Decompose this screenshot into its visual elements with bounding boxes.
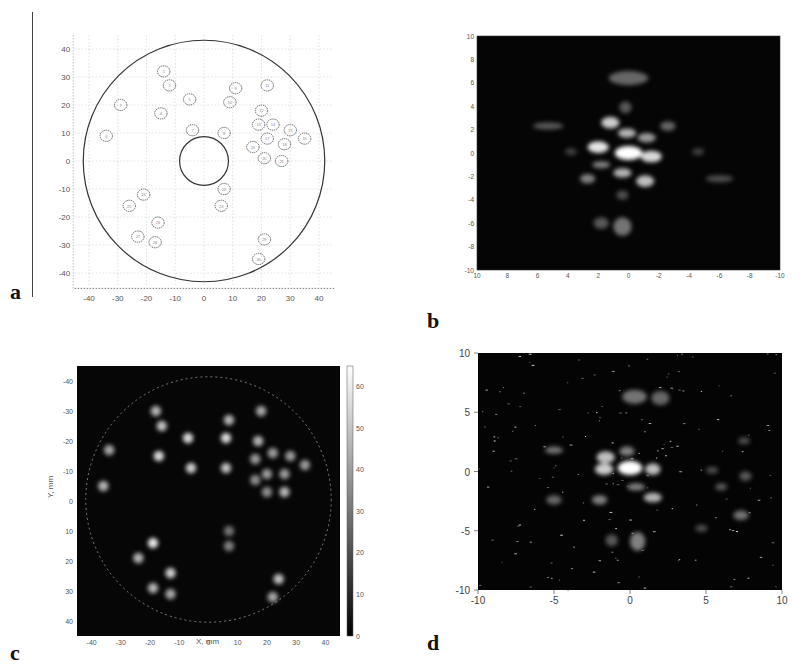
speckle xyxy=(647,487,648,488)
speckle xyxy=(493,436,495,437)
y-tick-label-b: 2 xyxy=(470,126,474,133)
speckle xyxy=(625,412,627,413)
defect-marker-label: 5 xyxy=(189,97,192,102)
intensity-blob xyxy=(221,433,231,443)
x-tick-label-c: -20 xyxy=(145,639,155,646)
speckle xyxy=(696,504,698,505)
x-tick-label-c: -30 xyxy=(116,639,126,646)
speckle xyxy=(732,530,734,531)
defect-marker-label: 3 xyxy=(120,103,123,108)
speckle xyxy=(663,444,664,445)
intensity-blob xyxy=(221,463,231,473)
speckle xyxy=(609,512,612,513)
speckle xyxy=(479,585,481,586)
intensity-blob xyxy=(256,406,266,416)
speckle xyxy=(543,446,545,447)
speckle xyxy=(749,512,751,513)
intensity-blob xyxy=(739,472,751,481)
defect-marker-label: 21 xyxy=(279,159,284,164)
y-tick-label-b: 0 xyxy=(470,150,474,157)
x-tick-label-a: 0 xyxy=(202,294,207,303)
intensity-blob xyxy=(224,541,234,551)
speckle xyxy=(715,517,716,518)
intensity-blob xyxy=(619,447,634,456)
speckle xyxy=(497,437,498,438)
intensity-blob xyxy=(616,190,628,199)
speckle xyxy=(629,520,632,521)
x-tick-label-a: 20 xyxy=(257,294,266,303)
speckle xyxy=(547,577,549,578)
intensity-blob xyxy=(619,102,631,114)
speckle xyxy=(530,587,532,588)
y-axis-label-c: Y, mm xyxy=(46,476,55,498)
speckle xyxy=(535,425,536,426)
intensity-blob xyxy=(592,161,610,168)
x-tick-label-c: 10 xyxy=(234,639,242,646)
intensity-blob xyxy=(622,390,646,404)
y-tick-label-a: 30 xyxy=(61,73,70,82)
speckle xyxy=(555,465,556,466)
y-tick-label-d: -5 xyxy=(461,526,470,537)
speckle xyxy=(615,558,617,559)
y-tick-label-b: 10 xyxy=(467,33,475,40)
defect-marker-label: 25 xyxy=(127,204,132,209)
speckle xyxy=(670,441,672,442)
x-tick-label-d: 0 xyxy=(627,595,633,606)
heatmap-c-background xyxy=(77,366,340,636)
intensity-blob xyxy=(133,553,143,563)
intensity-blob xyxy=(601,117,619,129)
y-tick-label-c: -30 xyxy=(63,408,73,415)
intensity-blob xyxy=(660,121,675,130)
speckle xyxy=(599,417,601,418)
y-tick-label-b: 6 xyxy=(470,79,474,86)
speckle xyxy=(666,377,667,378)
speckle xyxy=(562,437,564,438)
speckle xyxy=(611,552,613,553)
y-tick-label-a: -20 xyxy=(59,213,71,222)
y-tick-label-a: -10 xyxy=(59,185,71,194)
speckle xyxy=(511,471,513,472)
intensity-blob xyxy=(148,538,158,548)
x-tick-label-b: 0 xyxy=(627,272,631,279)
panel-b-plot: 1086420-2-4-6-8-101086420-2-4-6-8-10 xyxy=(410,0,804,330)
speckle xyxy=(608,519,611,520)
speckle xyxy=(718,385,719,386)
speckle xyxy=(722,451,723,452)
x-tick-label-d: -5 xyxy=(550,595,559,606)
intensity-blob xyxy=(151,406,161,416)
x-axis-label-c: X, mm xyxy=(196,637,219,646)
defect-marker-label: 23 xyxy=(219,204,224,209)
intensity-blob xyxy=(641,151,662,163)
speckle xyxy=(583,502,584,503)
y-tick-label-b: -10 xyxy=(465,267,475,274)
speckle xyxy=(507,403,510,404)
speckle xyxy=(750,488,751,489)
y-tick-label-c: 30 xyxy=(65,588,73,595)
defect-marker-label: 10 xyxy=(228,100,233,105)
intensity-blob xyxy=(615,146,642,160)
x-tick-label-b: -4 xyxy=(686,272,692,279)
x-tick-label-b: 4 xyxy=(566,272,570,279)
intensity-blob xyxy=(98,481,108,491)
intensity-blob xyxy=(546,495,561,504)
speckle xyxy=(547,487,549,488)
y-tick-label-a: 10 xyxy=(61,129,70,138)
y-tick-label-c: 0 xyxy=(69,498,73,505)
intensity-blob xyxy=(250,475,260,485)
defect-marker-label: 2 xyxy=(168,83,171,88)
y-tick-label-d: 10 xyxy=(459,348,471,359)
defect-marker-label: 16 xyxy=(302,136,307,141)
defect-marker-label: 18 xyxy=(282,142,287,147)
intensity-blob xyxy=(609,71,648,85)
defect-marker-label: 1 xyxy=(163,69,166,74)
defect-marker-label: 4 xyxy=(160,111,163,116)
speckle xyxy=(758,500,761,501)
speckle xyxy=(692,356,693,357)
intensity-blob xyxy=(597,451,615,463)
speckle xyxy=(730,395,732,396)
speckle xyxy=(639,453,640,454)
speckle xyxy=(617,484,620,485)
speckle xyxy=(492,451,494,452)
defect-marker-label: 7 xyxy=(191,128,194,133)
speckle xyxy=(583,520,585,521)
